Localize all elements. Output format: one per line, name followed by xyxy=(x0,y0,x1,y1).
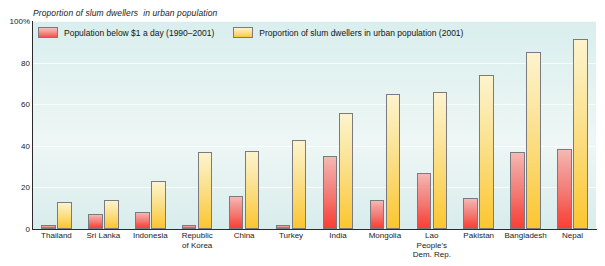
x-axis-line xyxy=(32,229,597,230)
y-axis-tick-labels: 100%806040200 xyxy=(0,0,30,266)
y-tick-label: 0 xyxy=(26,225,30,234)
bar-group xyxy=(510,21,541,229)
bar-slum-dwellers xyxy=(57,202,72,229)
chart-legend: Population below $1 a day (1990–2001)Pro… xyxy=(38,27,463,38)
y-tick-label: 60 xyxy=(21,100,30,109)
bar-group xyxy=(41,21,72,229)
bar-slum-dwellers xyxy=(245,151,260,229)
bar-poverty xyxy=(276,225,291,229)
bars-layer xyxy=(33,21,596,229)
bar-poverty xyxy=(557,149,572,229)
x-axis-label: India xyxy=(315,231,362,241)
bar-group xyxy=(323,21,354,229)
bar-poverty xyxy=(41,225,56,229)
bar-slum-dwellers xyxy=(339,113,354,229)
y-tick-label: 20 xyxy=(21,183,30,192)
bar-slum-dwellers xyxy=(433,92,448,229)
bar-poverty xyxy=(370,200,385,229)
bar-slum-dwellers xyxy=(479,75,494,229)
x-axis-label: Thailand xyxy=(33,231,80,241)
legend-swatch-yellow xyxy=(233,27,253,38)
bar-group xyxy=(463,21,494,229)
y-tick-label: 40 xyxy=(21,141,30,150)
bar-slum-dwellers xyxy=(198,152,213,229)
legend-label: Population below $1 a day (1990–2001) xyxy=(64,28,214,38)
chart-figure: Proportion of slum dwellers in urban pop… xyxy=(0,0,605,266)
x-axis-label: Bangladesh xyxy=(502,231,549,241)
chart-title: Proportion of slum dwellers in urban pop… xyxy=(33,8,217,18)
bar-slum-dwellers xyxy=(151,181,166,229)
bar-slum-dwellers xyxy=(526,52,541,229)
bar-poverty xyxy=(463,198,478,229)
bar-group xyxy=(135,21,166,229)
bar-group xyxy=(229,21,260,229)
legend-swatch-red xyxy=(38,27,58,38)
bar-slum-dwellers xyxy=(386,94,401,229)
bar-poverty xyxy=(323,156,338,229)
bar-group xyxy=(88,21,119,229)
x-axis-label: Turkey xyxy=(268,231,315,241)
bar-group xyxy=(557,21,588,229)
x-axis-category-labels: ThailandSri LankaIndonesiaRepublic of Ko… xyxy=(33,231,596,266)
x-axis-label: Pakistan xyxy=(455,231,502,241)
bar-group xyxy=(276,21,307,229)
x-axis-label: Mongolia xyxy=(361,231,408,241)
x-axis-label: Lao People's Dem. Rep. xyxy=(408,231,455,260)
x-axis-label: Sri Lanka xyxy=(80,231,127,241)
y-tick-label: 80 xyxy=(21,58,30,67)
bar-group xyxy=(417,21,448,229)
bar-slum-dwellers xyxy=(292,140,307,229)
x-axis-label: Indonesia xyxy=(127,231,174,241)
bar-group xyxy=(182,21,213,229)
bar-slum-dwellers xyxy=(573,39,588,229)
bar-poverty xyxy=(417,173,432,229)
x-axis-label: China xyxy=(221,231,268,241)
x-axis-label: Republic of Korea xyxy=(174,231,221,250)
bar-slum-dwellers xyxy=(104,200,119,229)
y-tick-label: 100% xyxy=(10,17,30,26)
legend-label: Proportion of slum dwellers in urban pop… xyxy=(259,28,463,38)
bar-poverty xyxy=(510,152,525,229)
bar-poverty xyxy=(135,212,150,229)
bar-group xyxy=(370,21,401,229)
bar-poverty xyxy=(182,225,197,229)
bar-poverty xyxy=(229,196,244,229)
x-axis-label: Nepal xyxy=(549,231,596,241)
legend-item: Population below $1 a day (1990–2001) xyxy=(38,27,214,38)
bar-poverty xyxy=(88,214,103,229)
legend-item: Proportion of slum dwellers in urban pop… xyxy=(233,27,463,38)
